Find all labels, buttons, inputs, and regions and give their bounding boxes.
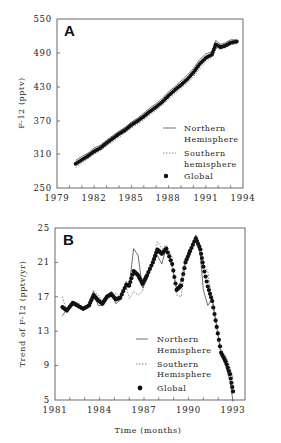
global-data-point [180,278,184,282]
global-data-point [181,272,185,276]
global-data-point [167,254,171,258]
legend-label: Northern [184,124,226,133]
panel-a-y-axis-title: F-12 (pptv) [17,77,26,128]
global-data-point [235,40,239,44]
legend-label: Global [157,384,186,393]
global-data-point [211,306,215,310]
global-data-point [206,284,210,288]
global-data-point [204,275,208,279]
panel-b-y-axis-title: Trend of F-12 (pptv/yr) [18,261,27,368]
global-data-point [169,258,173,262]
global-data-point [170,262,174,266]
global-data-point [229,381,233,385]
global-data-point [198,247,202,251]
global-data-point [216,331,220,335]
panel-b: B 25 21 17 13 9 5 Trend of F-12 (pptv/yr… [18,223,245,435]
global-data-point [207,288,211,292]
panel-a-ytick: 250 [33,183,52,193]
global-data-point [214,318,218,322]
panel-a-ytick: 490 [33,48,52,58]
legend-label: hemisphere [184,160,237,169]
panel-a-xtick: 1988 [156,193,181,203]
panel-a-ytick: 310 [33,149,52,159]
global-data-point [171,269,175,273]
panel-b-xtick: 1981 [43,405,68,415]
panel-b-xtick: 1993 [221,405,246,415]
global-data-point [217,338,221,342]
panel-b-ytick: 17 [38,292,50,302]
figure: A 550 490 430 370 310 250 F-12 (pptv) [0,0,281,443]
panel-a-xtick: 1991 [194,193,219,203]
legend-label: Southern [157,360,199,369]
global-data-point [201,260,205,264]
panel-b-ytick: 5 [44,395,50,405]
global-data-point [230,385,234,389]
global-data-point [231,389,235,393]
global-data-point [210,299,214,303]
legend-label: Hemisphere [157,346,212,355]
legend-label: Northern [157,335,199,344]
legend-label: Southern [184,149,226,158]
legend-dot-icon [164,174,168,178]
panel-b-letter: B [63,231,74,248]
global-data-point [202,270,206,274]
global-data-point [166,250,170,254]
panel-b-ytick: 9 [44,360,50,370]
global-data-point [229,376,233,380]
panel-b-x-axis-title: Time (months) [115,426,182,435]
panel-b-y-axis: 25 21 17 13 9 5 Trend of F-12 (pptv/yr) [18,223,58,405]
global-data-point [179,284,183,288]
panel-a-ytick: 430 [33,82,52,92]
global-data-point [199,252,203,256]
panel-b-xtick: 1984 [87,405,112,415]
legend-label: Global [184,172,213,181]
panel-a-xtick: 1985 [119,193,144,203]
global-data-point [228,372,232,376]
panel-a-ytick: 550 [33,14,52,24]
global-data-point [129,276,133,280]
panel-b-legend: Northern Hemisphere Southern Hemisphere … [136,335,212,393]
global-data-point [201,265,205,269]
panel-a: A 550 490 430 370 310 250 F-12 (pptv) [17,14,255,203]
panel-b-xtick: 1987 [132,405,157,415]
panel-b-ytick: 25 [38,223,50,233]
panel-a-xtick: 1982 [82,193,107,203]
global-data-point [208,292,212,296]
panel-a-xtick: 1979 [45,193,70,203]
global-data-point [127,284,131,288]
global-data-point [218,344,222,348]
legend-label: Hemisphere [184,135,239,144]
global-data-point [200,256,204,260]
panel-b-ytick: 13 [38,326,50,336]
panel-a-letter: A [64,22,75,39]
global-data-point [182,266,186,270]
legend-dot-icon [138,386,143,391]
panel-a-xtick: 1994 [231,193,256,203]
panel-a-ytick: 370 [33,116,52,126]
global-data-point [173,281,177,285]
global-data-point [172,275,176,279]
panel-b-x-axis: 1981 1984 1987 1990 1993 Time (months) [43,397,246,435]
global-data-point [164,247,168,251]
global-data-point [209,295,213,299]
panel-b-xtick: 1990 [176,405,201,415]
panel-b-ytick: 21 [38,257,50,267]
global-data-point [205,279,209,283]
global-data-point [128,280,132,284]
global-data-point [212,312,216,316]
legend-label: Hemisphere [157,370,212,379]
panel-a-y-axis: 550 490 430 370 310 250 F-12 (pptv) [17,14,60,193]
panel-a-legend: Northern Hemisphere Southern hemisphere … [163,124,239,181]
global-data-point [215,325,219,329]
